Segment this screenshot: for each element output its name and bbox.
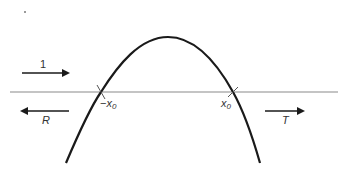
- subscript: 0: [227, 102, 231, 111]
- right-turning-point-label: x0: [221, 98, 231, 111]
- reflected-label: R: [42, 115, 50, 126]
- incident-label: 1: [40, 59, 46, 70]
- subscript: 0: [112, 102, 116, 111]
- transmitted-label: T: [282, 115, 289, 126]
- barrier-diagram: 1 R T −x0 x0: [0, 0, 349, 176]
- diagram-graphics: [0, 0, 349, 176]
- left-turning-point-label: −x0: [100, 98, 116, 111]
- speck: [24, 11, 26, 13]
